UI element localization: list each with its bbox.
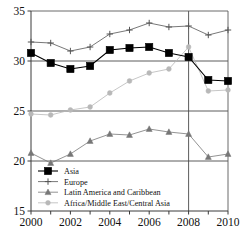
line-chart: 1520253035 200020022004200620082010 Asia… <box>0 0 240 238</box>
chart-container: 1520253035 200020022004200620082010 Asia… <box>0 0 240 238</box>
x-tick-label-2008: 2008 <box>177 216 200 228</box>
data-point <box>127 79 132 84</box>
data-point <box>67 48 73 54</box>
y-tick-label-30: 30 <box>14 55 26 67</box>
x-axis-tick-labels: 200020022004200620082010 <box>20 216 240 228</box>
data-point <box>28 39 34 45</box>
data-point <box>107 31 113 37</box>
legend-item-europe[interactable]: Europe <box>38 178 88 187</box>
data-point <box>29 112 34 117</box>
data-point <box>146 43 153 50</box>
data-point <box>107 131 113 137</box>
y-axis-tick-labels: 1520253035 <box>14 5 26 217</box>
data-point <box>48 40 54 46</box>
data-point <box>106 46 113 53</box>
data-point <box>147 71 152 76</box>
data-point <box>126 27 132 33</box>
legend-label: Asia <box>64 167 79 176</box>
chart-legend: AsiaEuropeLatin America and CaribbeanAfr… <box>38 167 170 208</box>
data-point <box>146 20 152 26</box>
data-point <box>126 44 133 51</box>
x-tick-label-2006: 2006 <box>138 216 161 228</box>
x-tick-label-2010: 2010 <box>217 216 240 228</box>
data-point <box>205 32 211 38</box>
x-tick-label-2004: 2004 <box>98 216 121 228</box>
axes-frame <box>28 11 229 215</box>
data-point <box>47 59 54 66</box>
gridlines <box>31 11 228 211</box>
data-point <box>226 88 231 93</box>
data-point <box>186 45 191 50</box>
y-tick-label-20: 20 <box>14 155 26 167</box>
data-point <box>27 49 34 56</box>
y-tick-label-35: 35 <box>14 5 26 17</box>
data-point <box>87 44 93 50</box>
data-point <box>185 23 191 29</box>
data-point <box>185 53 192 60</box>
data-point <box>167 67 172 72</box>
series-line <box>31 47 228 81</box>
legend-label: Latin America and Caribbean <box>64 188 161 197</box>
series-latin-america-and-caribbean <box>28 126 231 166</box>
data-point <box>48 113 53 118</box>
legend-item-asia[interactable]: Asia <box>38 167 79 176</box>
data-point <box>107 91 112 96</box>
y-tick-label-25: 25 <box>14 105 26 117</box>
x-tick-label-2000: 2000 <box>20 216 43 228</box>
data-point <box>88 105 93 110</box>
data-point <box>225 151 231 157</box>
data-point <box>225 27 231 33</box>
data-point <box>28 150 34 156</box>
data-point <box>68 108 73 113</box>
data-point <box>206 89 211 94</box>
x-tick-label-2002: 2002 <box>59 216 82 228</box>
legend-label: Africa/Middle East/Central Asia <box>64 199 170 208</box>
legend-item-africa-middle-east-central-asia[interactable]: Africa/Middle East/Central Asia <box>38 199 170 208</box>
data-point <box>67 65 74 72</box>
data-point <box>224 77 231 84</box>
data-point <box>205 76 212 83</box>
legend-item-latin-america-and-caribbean[interactable]: Latin America and Caribbean <box>38 188 161 197</box>
legend-marker-plus <box>45 178 51 184</box>
series-africa-middle-east-central-asia <box>29 45 231 118</box>
data-point <box>165 49 172 56</box>
data-series-layer <box>27 20 231 166</box>
data-point <box>67 151 73 157</box>
data-point <box>166 24 172 30</box>
legend-marker-filled-square <box>44 167 51 174</box>
legend-marker-filled-circle <box>46 200 51 205</box>
data-point <box>146 126 152 132</box>
legend-label: Europe <box>64 178 88 187</box>
data-point <box>87 62 94 69</box>
